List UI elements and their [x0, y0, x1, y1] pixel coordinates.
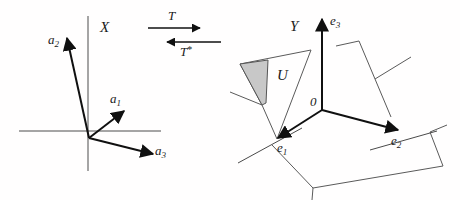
right-plane-outline [336, 41, 391, 117]
label-origin: 0 [310, 94, 317, 109]
figure-root: X a2 a1 a3 T T* Y e3 e1 [0, 0, 460, 200]
right-panel-group: Y e3 e1 e2 0 U [230, 13, 447, 200]
label-a1-subscript: 1 [117, 98, 122, 108]
floor-guide-e2 [370, 131, 437, 150]
label-a3-subscript: 3 [161, 150, 167, 160]
horizontal-plane-front-tick [312, 188, 313, 200]
label-space-y: Y [290, 18, 300, 34]
horizontal-plane-right-tick [430, 125, 447, 132]
label-map-t: T [168, 8, 176, 23]
label-vector-a3: a3 [155, 143, 167, 160]
label-e3-subscript: 3 [335, 20, 341, 30]
label-e2-subscript: 2 [397, 140, 402, 150]
label-a2-subscript: 2 [55, 39, 60, 49]
label-basis-e2: e2 [391, 133, 402, 150]
label-tstar-asterisk: * [187, 44, 192, 55]
right-plane-brace [375, 57, 411, 79]
label-subspace-u: U [277, 67, 289, 83]
vector-a3 [89, 138, 153, 154]
label-basis-e1: e1 [277, 140, 287, 157]
middle-panel-group: T T* [148, 8, 221, 59]
label-space-x: X [99, 19, 110, 35]
label-vector-a2: a2 [48, 32, 60, 49]
label-e1-subscript: 1 [283, 147, 288, 157]
diagram-canvas: X a2 a1 a3 T T* Y e3 e1 [0, 0, 460, 200]
vector-a1 [89, 111, 124, 138]
basis-vector-e2 [322, 110, 398, 130]
label-vector-a1: a1 [110, 91, 121, 108]
left-panel-group: X a2 a1 a3 [19, 16, 167, 171]
vector-a2 [67, 38, 89, 138]
floor-guide-e1 [238, 128, 302, 163]
label-map-t-star: T* [180, 44, 192, 59]
horizontal-plane-outline [272, 132, 443, 188]
basis-vector-e1 [278, 110, 322, 138]
label-basis-e3: e3 [330, 13, 341, 30]
